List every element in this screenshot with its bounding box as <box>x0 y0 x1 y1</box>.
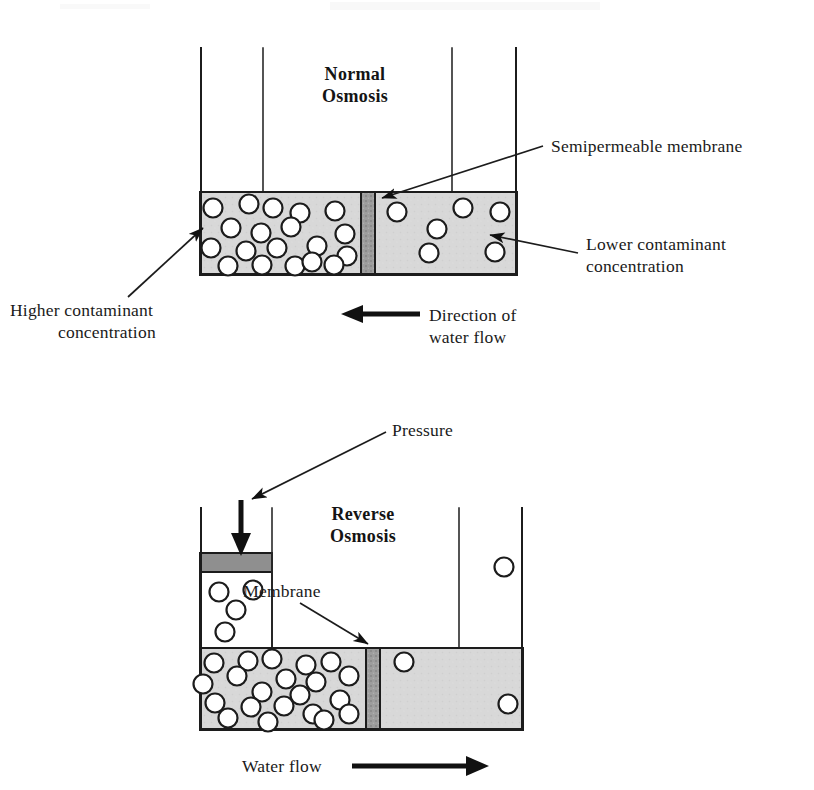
leader-membrane-bottom <box>300 603 368 644</box>
water-flow-arrow-bottom <box>352 756 489 776</box>
label-higher-concentration-line1: Higher contaminant <box>10 300 153 320</box>
heading-reverse-osmosis-line2: Osmosis <box>330 526 396 546</box>
osmosis-diagram: Normal Osmosis Semipermeable membrane Hi… <box>0 0 814 790</box>
leader-pressure <box>252 432 386 499</box>
scan-artifact <box>60 2 600 10</box>
label-water-flow-top-line1: Direction of <box>429 305 516 325</box>
label-water-flow-top-line2: water flow <box>429 327 506 347</box>
pressure-arrow <box>231 500 251 556</box>
label-pressure: Pressure <box>392 420 453 440</box>
pressure-piston <box>200 553 272 572</box>
leader-semipermeable-membrane <box>382 146 543 198</box>
label-lower-concentration-line2: concentration <box>586 256 684 276</box>
heading-reverse-osmosis-line1: Reverse <box>331 504 394 524</box>
heading-normal-osmosis-line2: Osmosis <box>322 86 388 106</box>
label-semipermeable-membrane: Semipermeable membrane <box>551 136 743 156</box>
water-flow-arrow-top <box>341 305 420 323</box>
diagram-canvas: Normal Osmosis Semipermeable membrane Hi… <box>0 0 814 790</box>
semipermeable-membrane-top <box>361 192 375 275</box>
leader-higher-concentration <box>128 228 203 297</box>
panel-normal-osmosis: Normal Osmosis Semipermeable membrane Hi… <box>10 48 743 347</box>
label-membrane-bottom: Membrane <box>243 581 320 601</box>
label-water-flow-bottom: Water flow <box>242 756 322 776</box>
membrane-bottom <box>366 648 380 730</box>
label-lower-concentration-line1: Lower contaminant <box>586 234 726 254</box>
label-higher-concentration-line2: concentration <box>58 322 156 342</box>
heading-normal-osmosis-line1: Normal <box>325 64 386 84</box>
panel-reverse-osmosis: Reverse Osmosis Pressure Membrane Water … <box>194 420 524 776</box>
